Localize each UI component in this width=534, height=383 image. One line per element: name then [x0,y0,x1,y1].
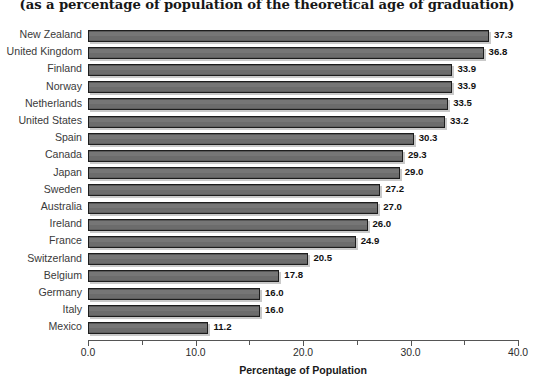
bar-row: Ireland26.0 [88,217,518,234]
bar-chart: (as a percentage of population of the th… [0,0,534,383]
bar-value-label: 33.9 [457,80,476,91]
x-axis-title: Percentage of Population [88,364,518,376]
bar-value-label: 36.8 [489,46,508,57]
category-label: Netherlands [25,97,82,114]
bar-value-label: 24.9 [361,235,380,246]
bar-row: Switzerland20.5 [88,252,518,269]
bar-row: Norway33.9 [88,80,518,97]
bar [88,150,403,162]
bar [88,64,452,76]
plot-area: New Zealand37.3United Kingdom36.8Finland… [88,28,518,340]
bar [88,322,208,334]
bar-value-label: 30.3 [419,132,438,143]
x-tick [196,340,197,346]
bar [88,30,489,42]
bar-value-label: 20.5 [313,252,332,263]
bar-row: Canada29.3 [88,148,518,165]
category-label: New Zealand [20,28,82,45]
x-tick [303,340,304,346]
bar-value-label: 37.3 [494,29,513,40]
chart-subtitle: (as a percentage of population of the th… [0,0,534,12]
bar-value-label: 26.0 [373,218,392,229]
category-label: United Kingdom [7,45,82,62]
bar-row: Sweden27.2 [88,183,518,200]
bar-value-label: 27.0 [383,201,402,212]
bar [88,81,452,93]
bar-value-label: 29.3 [408,149,427,160]
bar-row: Belgium17.8 [88,269,518,286]
x-minor-tick [357,340,358,345]
bar [88,47,484,59]
bar [88,133,414,145]
bar-value-label: 29.0 [405,166,424,177]
x-minor-tick [142,340,143,345]
bar [88,305,260,317]
category-label: Switzerland [27,252,82,269]
x-minor-tick [464,340,465,345]
bar-row: Netherlands33.5 [88,97,518,114]
bar-row: New Zealand37.3 [88,28,518,45]
bar [88,202,378,214]
bar-row: Japan29.0 [88,166,518,183]
x-minor-tick [249,340,250,345]
bar-row: Finland33.9 [88,62,518,79]
bar-value-label: 16.0 [265,304,284,315]
category-label: Japan [53,166,82,183]
category-label: Canada [45,148,82,165]
bar [88,270,279,282]
bar [88,184,380,196]
category-label: Finland [47,62,82,79]
x-tick-label: 30.0 [400,347,420,358]
category-label: United States [18,114,82,131]
bar [88,98,448,110]
bar [88,253,308,265]
x-tick-label: 0.0 [81,347,95,358]
bar [88,219,368,231]
bar-row: United Kingdom36.8 [88,45,518,62]
x-tick-label: 10.0 [185,347,205,358]
bar-row: Spain30.3 [88,131,518,148]
x-tick [411,340,412,346]
bar-row: Mexico11.2 [88,320,518,337]
category-label: Australia [41,200,82,217]
bar-value-label: 11.2 [213,321,231,332]
bar-value-label: 33.2 [450,115,469,126]
category-label: Norway [46,80,82,97]
bar-row: Italy16.0 [88,303,518,320]
bar-row: Australia27.0 [88,200,518,217]
bar-value-label: 17.8 [284,269,303,280]
bar-value-label: 16.0 [265,287,284,298]
bar [88,236,356,248]
category-label: Ireland [50,217,82,234]
x-tick-label: 20.0 [293,347,313,358]
x-tick [518,340,519,346]
category-label: Sweden [44,183,82,200]
bar-row: Germany16.0 [88,286,518,303]
bar [88,167,400,179]
category-label: Italy [63,303,82,320]
bar-row: United States33.2 [88,114,518,131]
bar-row: France24.9 [88,234,518,251]
bar [88,288,260,300]
category-label: Spain [55,131,82,148]
x-tick [88,340,89,346]
category-label: Germany [38,286,82,303]
category-label: France [49,234,82,251]
x-tick-label: 40.0 [508,347,528,358]
bar-value-label: 27.2 [385,183,404,194]
category-label: Belgium [44,269,82,286]
bar [88,116,445,128]
category-label: Mexico [48,320,82,337]
bar-value-label: 33.9 [457,63,476,74]
bar-value-label: 33.5 [453,97,472,108]
